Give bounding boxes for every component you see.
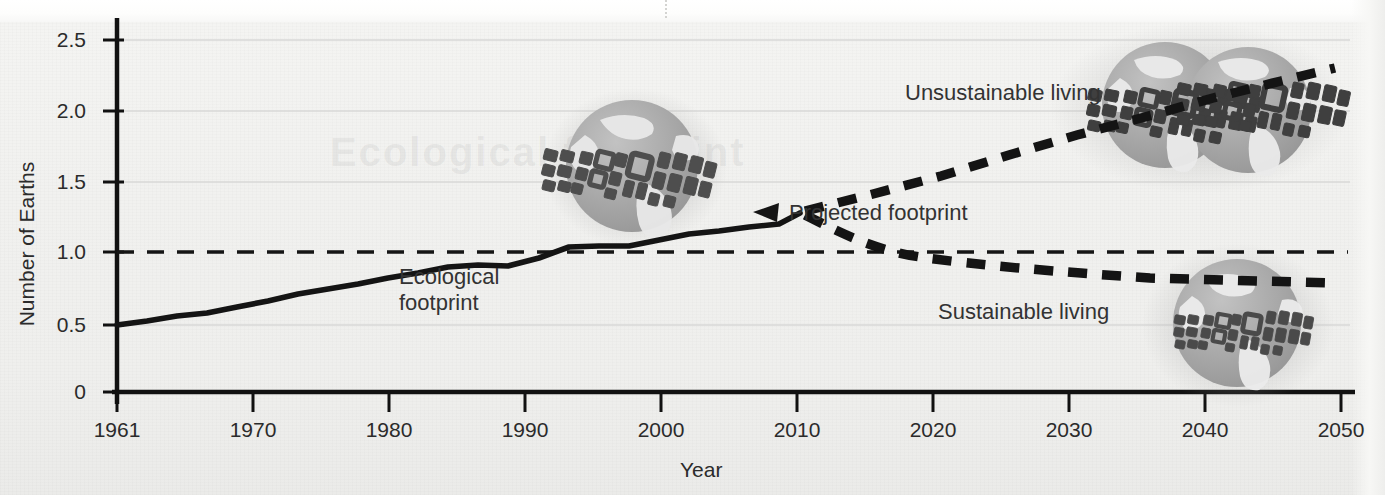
annotation-ecological-footprint-line1: Ecological	[399, 264, 499, 290]
x-tick-label-2010: 2010	[747, 418, 847, 442]
projected-footprint-arrowhead	[753, 203, 779, 222]
y-tick-label-0: 0	[16, 380, 86, 404]
globes-image-double-2040	[1050, 22, 1351, 194]
annotation-projected-footprint: Projected footprint	[789, 200, 968, 226]
x-tick-label-2030: 2030	[1019, 418, 1119, 442]
y-axis-title: Number of Earths	[15, 144, 39, 344]
y-tick-label-2-5: 2.5	[16, 28, 86, 52]
x-tick-label-1970: 1970	[203, 418, 303, 442]
globe-image-single-2000	[536, 88, 727, 248]
x-tick-label-2000: 2000	[611, 418, 711, 442]
globe-image-single-2040	[1142, 243, 1334, 407]
x-axis-ticks	[117, 392, 1341, 412]
x-tick-label-1961: 1961	[67, 418, 167, 442]
y-tick-label-2-0: 2.0	[16, 99, 86, 123]
y-axis-ticks	[103, 40, 124, 392]
annotation-sustainable-living: Sustainable living	[938, 299, 1109, 325]
figure-canvas: Ecological footprint	[0, 0, 1385, 495]
annotation-unsustainable-living: Unsustainable living	[905, 80, 1101, 106]
annotation-ecological-footprint-line2: footprint	[399, 290, 499, 316]
x-tick-label-2040: 2040	[1155, 418, 1255, 442]
x-axis-title: Year	[680, 458, 722, 482]
annotation-ecological-footprint: Ecological footprint	[399, 264, 499, 316]
x-tick-label-2050: 2050	[1291, 418, 1385, 442]
x-tick-label-1980: 1980	[339, 418, 439, 442]
x-tick-label-2020: 2020	[883, 418, 983, 442]
x-tick-label-1990: 1990	[475, 418, 575, 442]
